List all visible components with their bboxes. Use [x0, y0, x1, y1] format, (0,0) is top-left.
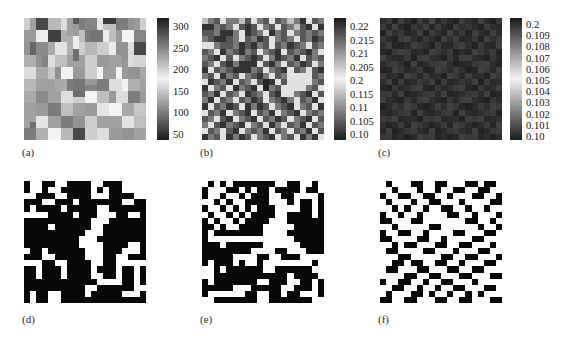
- colorbar-tick-label: 0.107: [526, 54, 550, 65]
- colorbar-tick-label: 0.10: [526, 132, 544, 143]
- colorbar-tick-label: 0.105: [526, 76, 550, 87]
- colorbar-tick-label: 0.108: [526, 42, 550, 53]
- colorbar-tick-label: 200: [173, 65, 189, 76]
- colorbar-a: [157, 18, 169, 140]
- colorbar-tick-label: 0.106: [526, 65, 550, 76]
- colorbar-tick-label: 0.215: [350, 36, 374, 47]
- colorbar-tick-label: 0.105: [350, 117, 374, 128]
- colorbar-tick-label: 100: [173, 108, 189, 119]
- colorbar-tick-label: 0.115: [350, 90, 373, 101]
- colorbar-tick-label: 0.101: [526, 121, 550, 132]
- colorbar-tick-label: 250: [173, 44, 189, 55]
- colorbar-b: [334, 18, 346, 140]
- panel-label-b: (b): [200, 146, 213, 158]
- figure-panel-grid: 30025020015010050 (a) 0.220.2150.210.205…: [0, 0, 566, 344]
- colorbar-tick-label: 0.2: [526, 20, 539, 31]
- panel-e: [202, 181, 324, 303]
- panel-d: [24, 181, 146, 303]
- heatmap-b: [202, 18, 324, 140]
- panel-label-a: (a): [22, 146, 34, 158]
- colorbar-tick-label: 0.2: [350, 76, 363, 87]
- panel-f: [380, 181, 502, 303]
- panel-label-c: (c): [378, 146, 390, 158]
- panel-b: [202, 18, 324, 140]
- colorbar-tick-label: 0.109: [526, 31, 550, 42]
- colorbar-c: [510, 18, 522, 140]
- colorbar-tick-label: 0.103: [526, 98, 550, 109]
- colorbar-tick-label: 0.21: [350, 49, 368, 60]
- binary-mask-f: [380, 181, 502, 303]
- colorbar-tick-label: 150: [173, 87, 189, 98]
- colorbar-tick-label: 0.10: [350, 130, 368, 141]
- colorbar-tick-label: 0.102: [526, 110, 550, 121]
- panel-c: [380, 18, 502, 140]
- colorbar-tick-label: 50: [173, 130, 184, 141]
- panel-label-d: (d): [22, 313, 35, 325]
- colorbar-tick-label: 0.205: [350, 63, 374, 74]
- colorbar-tick-label: 300: [173, 22, 189, 33]
- colorbar-tick-label: 0.22: [350, 22, 368, 33]
- colorbar-tick-label: 0.104: [526, 87, 550, 98]
- binary-mask-d: [24, 181, 146, 303]
- panel-a: [24, 18, 146, 140]
- panel-label-f: (f): [378, 313, 389, 325]
- binary-mask-e: [202, 181, 324, 303]
- panel-label-e: (e): [200, 313, 212, 325]
- heatmap-a: [24, 18, 146, 140]
- heatmap-c: [380, 18, 502, 140]
- colorbar-tick-label: 0.11: [350, 103, 368, 114]
